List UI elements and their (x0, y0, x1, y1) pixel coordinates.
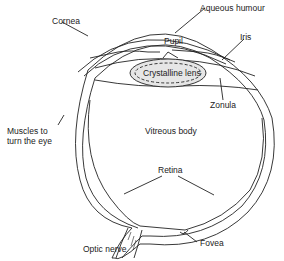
label-muscles-line2: turn the eye (7, 136, 52, 146)
eye-diagram: Cornea Aqueous humour Pupil Iris Crystal… (0, 0, 284, 261)
label-zonula: Zonula (210, 100, 236, 110)
label-fovea: Fovea (200, 238, 224, 248)
label-aqueous-humour: Aqueous humour (200, 3, 265, 13)
label-retina: Retina (158, 165, 183, 175)
fovea-dip (180, 230, 188, 234)
label-iris: Iris (240, 32, 251, 42)
label-crystalline-lens: Crystalline lens (143, 68, 201, 78)
label-pupil: Pupil (164, 36, 183, 46)
label-vitreous-body: Vitreous body (145, 126, 197, 136)
label-cornea: Cornea (52, 16, 80, 26)
label-optic-nerve: Optic nerve (83, 244, 126, 254)
label-muscles-line1: Muscles to (7, 126, 48, 136)
